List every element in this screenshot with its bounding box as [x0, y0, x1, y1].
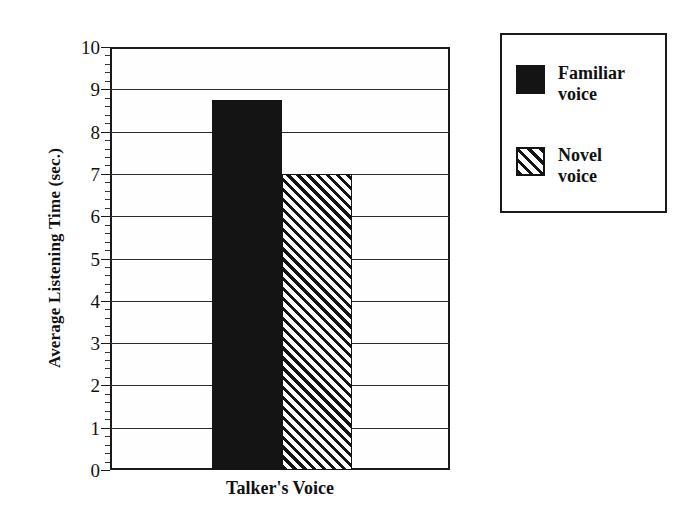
- plot-area: [110, 47, 450, 470]
- legend-box: Familiar voice Novel voice: [500, 33, 667, 213]
- y-axis-tick-label: 5: [60, 249, 100, 268]
- y-axis-minor-tick: [105, 284, 110, 285]
- y-axis-minor-tick: [105, 225, 110, 226]
- y-axis-minor-tick: [105, 64, 110, 65]
- y-axis-minor-tick: [105, 182, 110, 183]
- y-axis-minor-tick: [105, 335, 110, 336]
- diagonal-hatch-swatch-icon: [516, 147, 545, 176]
- y-axis-minor-tick: [105, 462, 110, 463]
- bar-familiar-voice: [212, 100, 282, 470]
- y-axis-minor-tick: [105, 318, 110, 319]
- y-axis-minor-tick: [105, 149, 110, 150]
- bar-novel-voice: [282, 174, 352, 470]
- y-axis-minor-tick: [105, 394, 110, 395]
- y-axis-minor-tick: [105, 368, 110, 369]
- y-axis-minor-tick: [105, 411, 110, 412]
- y-axis-major-tick: [101, 216, 110, 217]
- y-axis-major-tick: [101, 259, 110, 260]
- y-axis-minor-tick: [105, 242, 110, 243]
- y-axis-tick-label: 3: [60, 334, 100, 353]
- gridline: [110, 89, 450, 90]
- y-axis-minor-tick: [105, 453, 110, 454]
- y-axis-minor-tick: [105, 360, 110, 361]
- x-axis-title: Talker's Voice: [110, 478, 450, 499]
- y-axis-minor-tick: [105, 250, 110, 251]
- y-axis-tick-label: 7: [60, 164, 100, 183]
- y-axis-tick-label: 2: [60, 376, 100, 395]
- y-axis-minor-tick: [105, 208, 110, 209]
- y-axis-minor-tick: [105, 292, 110, 293]
- y-axis-tick-label: 6: [60, 207, 100, 226]
- y-axis-major-tick: [101, 301, 110, 302]
- solid-black-swatch-icon: [516, 65, 545, 94]
- y-axis-major-tick: [101, 428, 110, 429]
- y-axis-minor-tick: [105, 419, 110, 420]
- y-axis-tick-label: 4: [60, 291, 100, 310]
- y-axis-minor-tick: [105, 115, 110, 116]
- y-axis-minor-tick: [105, 81, 110, 82]
- bar-chart-figure: Average Listening Time (sec.) 0123456789…: [0, 0, 691, 526]
- y-axis-major-tick: [101, 132, 110, 133]
- y-axis-tick-labels: 012345678910: [55, 47, 100, 470]
- legend-item-label: Novel voice: [558, 145, 602, 187]
- y-axis-minor-tick: [105, 377, 110, 378]
- y-axis-major-tick: [101, 385, 110, 386]
- y-axis-minor-tick: [105, 402, 110, 403]
- y-axis-tick-label: 9: [60, 80, 100, 99]
- y-axis-minor-tick: [105, 55, 110, 56]
- y-axis-minor-tick: [105, 352, 110, 353]
- y-axis-minor-tick: [105, 275, 110, 276]
- y-axis-minor-tick: [105, 106, 110, 107]
- y-axis-tick-label: 0: [60, 461, 100, 480]
- y-axis-major-tick: [101, 174, 110, 175]
- y-axis-tick-label: 8: [60, 122, 100, 141]
- y-axis-major-tick: [101, 47, 110, 48]
- y-axis-major-tick: [101, 89, 110, 90]
- y-axis-major-tick: [101, 343, 110, 344]
- legend-item-familiar-voice: Familiar voice: [516, 63, 625, 105]
- legend-item-label: Familiar voice: [558, 63, 625, 105]
- y-axis-minor-tick: [105, 326, 110, 327]
- y-axis-minor-tick: [105, 165, 110, 166]
- y-axis-minor-tick: [105, 436, 110, 437]
- y-axis-minor-tick: [105, 199, 110, 200]
- y-axis-major-tick: [101, 470, 110, 471]
- y-axis-tick-label: 10: [60, 38, 100, 57]
- y-axis-minor-tick: [105, 191, 110, 192]
- y-axis-minor-tick: [105, 309, 110, 310]
- y-axis-tick-label: 1: [60, 418, 100, 437]
- y-axis-minor-tick: [105, 72, 110, 73]
- y-axis-minor-tick: [105, 233, 110, 234]
- y-axis-minor-tick: [105, 157, 110, 158]
- y-axis-minor-tick: [105, 267, 110, 268]
- legend-item-novel-voice: Novel voice: [516, 145, 602, 187]
- y-axis-minor-tick: [105, 140, 110, 141]
- y-axis-minor-tick: [105, 98, 110, 99]
- y-axis-minor-tick: [105, 123, 110, 124]
- y-axis-minor-tick: [105, 445, 110, 446]
